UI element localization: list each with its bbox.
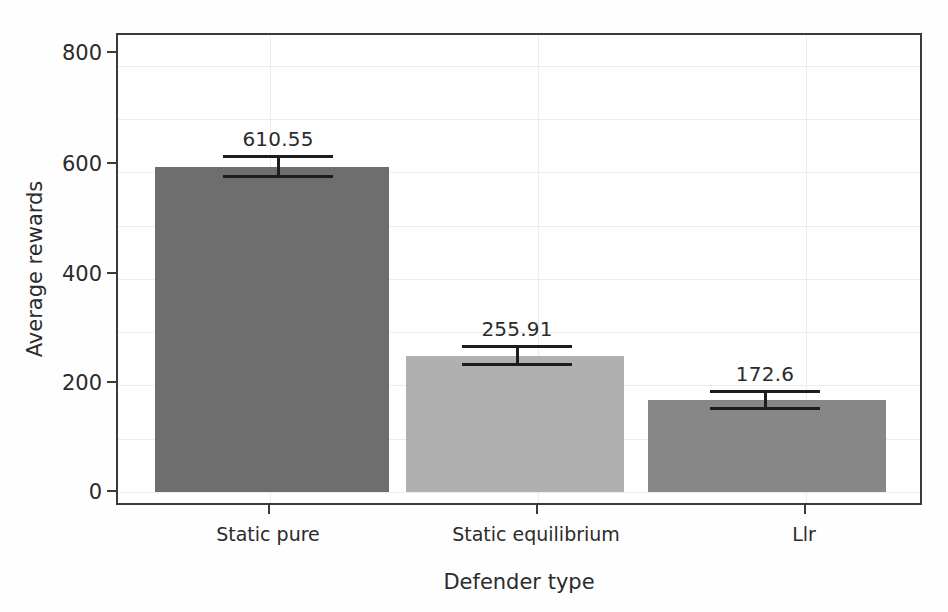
y-tick-label-400: 400	[40, 262, 102, 286]
errorbar-cap-bottom	[462, 363, 572, 366]
x-tick-label-llr: Llr	[694, 523, 914, 545]
bar-static-pure[interactable]	[155, 167, 389, 492]
y-tick-label-200: 200	[40, 371, 102, 395]
x-tick-mark-static-equilibrium	[536, 505, 538, 514]
y-tick-mark-400	[107, 272, 116, 274]
x-tick-mark-static-pure	[268, 505, 270, 514]
value-label-static-equilibrium: 255.91	[457, 317, 577, 341]
errorbar-llr	[710, 390, 820, 410]
y-tick-mark-800	[107, 51, 116, 53]
y-tick-label-800: 800	[40, 41, 102, 65]
x-tick-label-static-pure: Static pure	[158, 523, 378, 545]
value-label-llr: 172.6	[705, 362, 825, 386]
gridline-800	[118, 66, 920, 67]
bar-static-equilibrium[interactable]	[406, 356, 624, 492]
figure-canvas: Average rewards 800 600 400 200 0	[0, 0, 948, 612]
errorbar-cap-bottom	[223, 175, 333, 178]
plot-area: 610.55 255.91 172.6	[116, 33, 922, 505]
x-tick-mark-llr	[804, 505, 806, 514]
y-tick-mark-600	[107, 162, 116, 164]
y-tick-mark-0	[107, 490, 116, 492]
x-axis-title: Defender type	[116, 570, 922, 594]
errorbar-static-equilibrium	[462, 345, 572, 365]
gridline-700	[118, 119, 920, 120]
x-tick-label-static-equilibrium: Static equilibrium	[417, 523, 655, 545]
errorbar-cap-bottom	[710, 407, 820, 410]
bar-llr[interactable]	[648, 400, 886, 492]
gridline-0	[118, 492, 920, 493]
value-label-static-pure: 610.55	[218, 127, 338, 151]
y-tick-label-600: 600	[40, 152, 102, 176]
y-tick-label-0: 0	[40, 480, 102, 504]
errorbar-static-pure	[223, 155, 333, 177]
y-tick-mark-200	[107, 381, 116, 383]
